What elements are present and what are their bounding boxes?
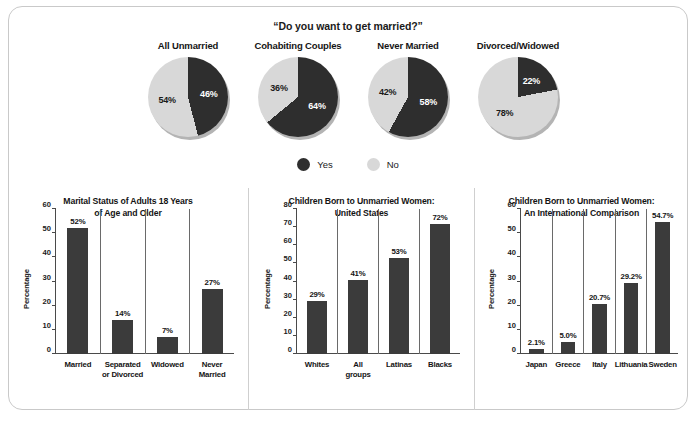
y-axis-tick-label: 70 bbox=[284, 218, 292, 227]
bar-column[interactable]: 52%Married bbox=[56, 209, 101, 354]
pie-graphic: 46%54% bbox=[148, 57, 228, 137]
bar[interactable] bbox=[561, 342, 576, 354]
legend-label: Yes bbox=[317, 159, 333, 170]
y-axis-tick-label: 50 bbox=[508, 224, 516, 233]
bar-value-label: 2.1% bbox=[528, 338, 545, 347]
bar[interactable] bbox=[348, 280, 367, 354]
bar[interactable] bbox=[389, 258, 408, 354]
bar-column[interactable]: 54.7%Sweden bbox=[647, 209, 678, 354]
infographic-figure: “Do you want to get married?” All Unmarr… bbox=[0, 0, 696, 425]
y-axis-tick-label: 60 bbox=[43, 200, 51, 209]
pie-chart-title: All Unmarried bbox=[138, 40, 238, 51]
plot-area: Percentage01020304050602.1%Japan5.0%Gree… bbox=[521, 209, 678, 354]
x-axis-category-label: Sweden bbox=[640, 360, 686, 370]
filled-circle-icon bbox=[297, 158, 310, 171]
bar-group: 2.1%Japan5.0%Greece20.7%Italy29.2%Lithua… bbox=[521, 209, 678, 354]
y-axis-tick-label: 30 bbox=[508, 272, 516, 281]
bar-chart-section: Marital Status of Adults 18 Yearsof Age … bbox=[8, 188, 688, 410]
bar-value-label: 14% bbox=[115, 309, 130, 318]
y-axis-tick-label: 80 bbox=[284, 200, 292, 209]
legend-label: No bbox=[387, 159, 399, 170]
y-axis-tick-label: 0 bbox=[288, 345, 292, 354]
category-label-line: Blacks bbox=[410, 360, 470, 370]
bar-value-label: 53% bbox=[391, 247, 406, 256]
legend-item-no: No bbox=[367, 158, 399, 171]
bar-chart-panel-us-births: Children Born to Unmarried Women:United … bbox=[248, 188, 474, 410]
pie-slices bbox=[478, 57, 558, 137]
bar[interactable] bbox=[529, 349, 544, 354]
bar[interactable] bbox=[624, 283, 639, 354]
plot-area: Percentage010203040506052%Married14%Sepa… bbox=[56, 209, 234, 354]
bar-column[interactable]: 72%Blacks bbox=[420, 209, 460, 354]
bar-value-label: 7% bbox=[162, 326, 173, 335]
pie-slice-label: 64% bbox=[308, 101, 325, 111]
y-axis-tick-label: 30 bbox=[43, 272, 51, 281]
bar-column[interactable]: 7%Widowed bbox=[146, 209, 191, 354]
y-axis-tick-label: 20 bbox=[284, 308, 292, 317]
bar-column[interactable]: 20.7%Italy bbox=[584, 209, 616, 354]
bar[interactable] bbox=[112, 320, 133, 354]
pie-chart-1: All Unmarried46%54% bbox=[138, 40, 238, 137]
pie-slice-label: 22% bbox=[523, 76, 540, 86]
bar-value-label: 29% bbox=[309, 290, 324, 299]
pie-chart-title: Cohabiting Couples bbox=[248, 40, 348, 51]
y-axis-tick-label: 40 bbox=[508, 248, 516, 257]
pie-slice-label: 36% bbox=[270, 83, 287, 93]
bar-value-label: 27% bbox=[205, 278, 220, 287]
y-axis-title: Percentage bbox=[22, 269, 31, 309]
pie-graphic: 58%42% bbox=[368, 57, 448, 137]
pie-slice-label: 58% bbox=[420, 97, 437, 107]
y-axis-tick-label: 40 bbox=[43, 248, 51, 257]
pie-chart-3: Never Married58%42% bbox=[358, 40, 458, 137]
y-axis-tick-label: 60 bbox=[508, 200, 516, 209]
bar-column[interactable]: 14%Separatedor Divorced bbox=[101, 209, 146, 354]
bar-column[interactable]: 29.2%Lithuania bbox=[616, 209, 648, 354]
pie-slice-label: 78% bbox=[496, 108, 513, 118]
bar-column[interactable]: 29%Whites bbox=[297, 209, 338, 354]
bar-value-label: 29.2% bbox=[621, 272, 642, 281]
bar[interactable] bbox=[67, 228, 88, 354]
bar[interactable] bbox=[307, 301, 326, 354]
bar-chart-panel-marital-status: Marital Status of Adults 18 Yearsof Age … bbox=[8, 188, 248, 410]
bar-group: 29%Whites41%Allgroups53%Latinas72%Blacks bbox=[297, 209, 460, 354]
bar-column[interactable]: 5.0%Greece bbox=[553, 209, 585, 354]
bar[interactable] bbox=[592, 304, 607, 354]
pie-slice-label: 46% bbox=[200, 89, 217, 99]
bar[interactable] bbox=[157, 337, 178, 354]
bar[interactable] bbox=[202, 289, 223, 354]
legend-item-yes: Yes bbox=[297, 158, 333, 171]
pie-slice-label: 54% bbox=[158, 95, 175, 105]
y-axis-tick-label: 0 bbox=[512, 345, 516, 354]
pie-section-question-title: “Do you want to get married?” bbox=[8, 20, 688, 32]
bar[interactable] bbox=[430, 224, 449, 355]
y-axis-tick-label: 0 bbox=[47, 345, 51, 354]
y-axis-tick-label: 60 bbox=[284, 236, 292, 245]
y-axis-tick-label: 50 bbox=[43, 224, 51, 233]
y-axis-tick-label: 40 bbox=[284, 272, 292, 281]
bar-column[interactable]: 41%Allgroups bbox=[338, 209, 379, 354]
x-axis-category-label: Blacks bbox=[410, 360, 470, 370]
pie-chart-legend: YesNo bbox=[8, 158, 688, 171]
category-label-line: Sweden bbox=[640, 360, 686, 370]
pie-graphic: 22%78% bbox=[478, 57, 558, 137]
bar-group: 52%Married14%Separatedor Divorced7%Widow… bbox=[56, 209, 234, 354]
pie-chart-section: “Do you want to get married?” All Unmarr… bbox=[8, 6, 688, 188]
pie-slices bbox=[258, 57, 338, 137]
bar-value-label: 52% bbox=[70, 217, 85, 226]
bar-column[interactable]: 27%NeverMarried bbox=[190, 209, 234, 354]
bar-value-label: 5.0% bbox=[559, 331, 576, 340]
bar-value-label: 20.7% bbox=[589, 293, 610, 302]
bar-value-label: 72% bbox=[432, 213, 447, 222]
y-axis-tick-label: 10 bbox=[284, 326, 292, 335]
y-axis-tick-label: 50 bbox=[284, 254, 292, 263]
category-label-line: Never bbox=[186, 360, 238, 370]
bar-column[interactable]: 53%Latinas bbox=[379, 209, 420, 354]
pie-graphic: 64%36% bbox=[258, 57, 338, 137]
y-axis-tick-label: 30 bbox=[284, 290, 292, 299]
bar[interactable] bbox=[655, 222, 670, 354]
bar-chart-panel-international: Children Born to Unmarried Women:An Inte… bbox=[474, 188, 688, 410]
plot-area: Percentage0102030405060708029%Whites41%A… bbox=[297, 209, 460, 354]
bar-column[interactable]: 2.1%Japan bbox=[521, 209, 553, 354]
y-axis-tick-label: 10 bbox=[43, 320, 51, 329]
pie-chart-title: Divorced/Widowed bbox=[468, 40, 568, 51]
